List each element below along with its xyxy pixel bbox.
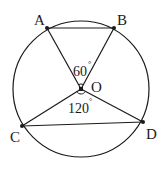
segment-cd bbox=[22, 122, 143, 126]
label-c: C bbox=[10, 129, 20, 145]
label-a: A bbox=[34, 12, 45, 28]
segment-ao bbox=[47, 28, 81, 89]
label-o: O bbox=[91, 79, 102, 95]
point-a bbox=[45, 26, 49, 30]
degree-symbol-cod: ° bbox=[89, 97, 92, 106]
point-o bbox=[79, 87, 83, 91]
label-b: B bbox=[117, 12, 127, 28]
point-c bbox=[20, 124, 24, 128]
point-b bbox=[112, 26, 116, 30]
angle-label-aob: 60 bbox=[73, 64, 87, 79]
degree-symbol-aob: ° bbox=[88, 60, 91, 69]
angle-label-cod: 120 bbox=[68, 101, 89, 116]
angle-arc-aob bbox=[79, 84, 84, 85]
label-d: D bbox=[146, 126, 157, 142]
circle-diagram: A B C D O 60 ° 120 ° bbox=[0, 0, 167, 173]
point-d bbox=[141, 120, 145, 124]
angle-arc-cod bbox=[77, 91, 86, 94]
